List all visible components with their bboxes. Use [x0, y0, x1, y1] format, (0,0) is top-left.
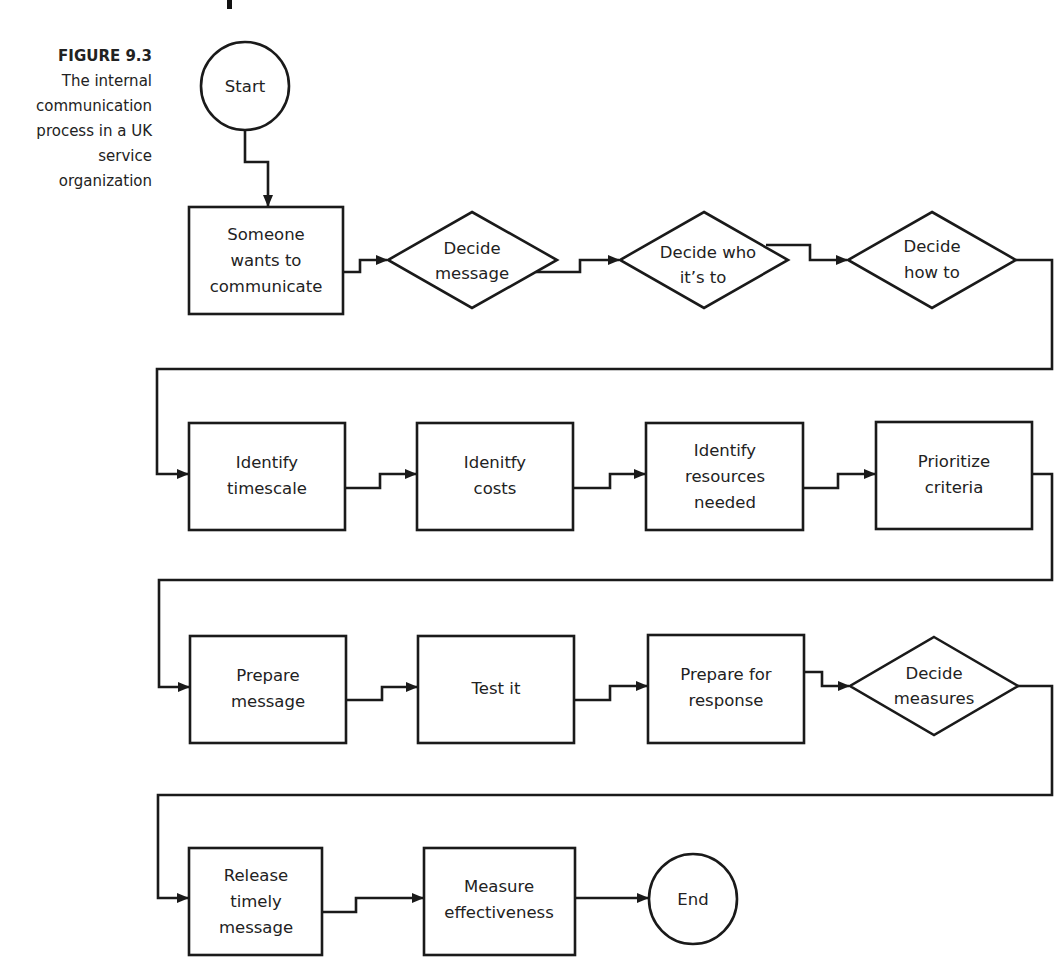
- node-start: Start: [201, 42, 289, 130]
- node-label: costs: [474, 479, 517, 498]
- node-label: Decide: [443, 239, 500, 258]
- connector-prepare-message-to-test: [346, 687, 417, 700]
- connector-someone-to-decide-message: [343, 260, 387, 272]
- node-decide-measures: Decide measures: [850, 637, 1018, 735]
- node-label: Prioritize: [918, 452, 990, 471]
- connector-start-to-someone: [245, 130, 268, 206]
- node-label: Prepare: [236, 666, 299, 685]
- node-label: how to: [904, 263, 960, 282]
- node-decide-message: Decide message: [388, 212, 557, 308]
- node-prepare-message: Prepare message: [190, 636, 346, 743]
- node-label: it’s to: [680, 268, 727, 287]
- node-label: criteria: [925, 478, 984, 497]
- node-label: Release: [224, 866, 288, 885]
- node-label: message: [231, 692, 305, 711]
- node-someone-wants-to-communicate: Someone wants to communicate: [189, 207, 343, 314]
- node-identify-resources-needed: Identify resources needed: [646, 423, 803, 530]
- node-prepare-for-response: Prepare for response: [648, 635, 804, 743]
- node-end: End: [649, 854, 737, 944]
- node-label: measures: [894, 689, 975, 708]
- node-label: Prepare for: [680, 665, 772, 684]
- node-label: Decide: [903, 237, 960, 256]
- node-label: message: [219, 918, 293, 937]
- node-label: Identify: [694, 441, 757, 460]
- node-label: timely: [230, 892, 282, 911]
- node-release-timely-message: Release timely message: [189, 848, 322, 955]
- node-label: response: [689, 691, 764, 710]
- node-label: message: [435, 264, 509, 283]
- connector-prepare-response-to-decide-measures: [804, 672, 849, 686]
- node-label: communicate: [210, 277, 323, 296]
- node-label: Test it: [471, 679, 521, 698]
- node-test-it: Test it: [418, 636, 574, 743]
- node-label: effectiveness: [444, 903, 554, 922]
- node-measure-effectiveness: Measure effectiveness: [424, 848, 575, 955]
- connector-costs-to-resources: [573, 474, 645, 488]
- connector-release-to-measure: [322, 898, 423, 912]
- node-label: resources: [685, 467, 765, 486]
- node-label: Decide: [905, 664, 962, 683]
- node-prioritize-criteria: Prioritize criteria: [876, 422, 1032, 529]
- connector-timescale-to-costs: [345, 474, 416, 488]
- node-label: Someone: [227, 225, 305, 244]
- node-label: End: [677, 890, 708, 909]
- node-label: needed: [694, 493, 756, 512]
- node-label: Start: [225, 77, 266, 96]
- node-identify-costs: Idenitfy costs: [417, 423, 573, 530]
- node-label: Measure: [464, 877, 534, 896]
- node-decide-who-its-to: Decide who it’s to: [620, 212, 788, 308]
- node-identify-timescale: Identify timescale: [189, 423, 345, 530]
- node-label: Idenitfy: [464, 453, 527, 472]
- connector-resources-to-prioritize: [803, 474, 875, 488]
- node-decide-how-to: Decide how to: [848, 212, 1016, 308]
- node-label: timescale: [227, 479, 307, 498]
- node-label: wants to: [231, 251, 302, 270]
- flowchart: Start Someone wants to communicate Decid…: [0, 0, 1054, 970]
- node-label: Identify: [236, 453, 299, 472]
- node-label: Decide who: [660, 243, 756, 262]
- connector-test-to-prepare-response: [574, 686, 647, 700]
